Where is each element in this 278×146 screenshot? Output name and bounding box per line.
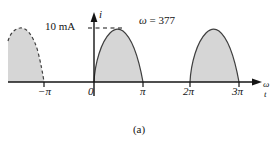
pulse-area-first-cycle: [94, 29, 143, 82]
horizontal-axis-label-t: t: [264, 90, 267, 99]
tick-label-negative-pi: −π: [38, 86, 51, 97]
horizontal-axis-arrow-icon: [252, 78, 262, 85]
tick-label-three-pi: 3π: [232, 86, 243, 97]
amplitude-label: 10 mA: [45, 21, 75, 32]
figure-container: 10 mA i ω = 377 −π 0 π 2π 3π ω t (a): [0, 0, 278, 146]
omega-value-annotation: ω = 377: [139, 15, 175, 26]
figure-caption: (a): [0, 124, 278, 135]
tick-label-pi: π: [140, 86, 146, 97]
tick-label-zero: 0: [88, 86, 94, 97]
equals-sign: =: [150, 14, 156, 26]
vertical-axis-label-i: i: [99, 9, 102, 20]
omega-value: 377: [159, 14, 176, 26]
horizontal-axis-label-omega: ω: [263, 80, 269, 89]
vertical-axis-arrow-icon: [91, 12, 98, 22]
omega-symbol: ω: [139, 14, 147, 26]
tick-label-two-pi: 2π: [183, 86, 194, 97]
pulse-area-third-cycle: [190, 29, 239, 82]
